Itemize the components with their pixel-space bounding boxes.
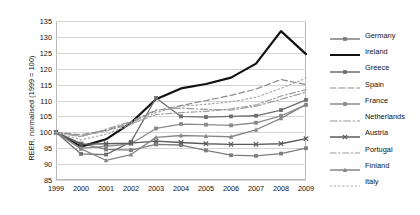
y-tick-label: 120 (18, 64, 52, 73)
legend-swatch (330, 128, 360, 138)
legend-label: Greece (365, 63, 389, 72)
data-point (304, 98, 308, 102)
legend-item-netherlands[interactable]: Netherlands (330, 108, 420, 124)
legend-item-spain[interactable]: Spain (330, 76, 420, 92)
legend-item-austria[interactable]: Austria (330, 125, 420, 141)
data-point (179, 122, 183, 126)
legend-item-italy[interactable]: Italy (330, 174, 420, 190)
legend-swatch (330, 144, 360, 154)
reer-line-chart: REER, normalised (1999 = 100) 8590951001… (0, 0, 420, 215)
y-tick-label: 105 (18, 112, 52, 121)
y-tick-label: 95 (18, 144, 52, 153)
x-tick-label: 2009 (286, 184, 326, 193)
legend-swatch (330, 46, 360, 56)
legend-swatch (330, 30, 360, 40)
x-axis-tick-labels: 1999200020012002200320042005200620072008… (56, 184, 306, 198)
legend-item-ireland[interactable]: Ireland (330, 43, 420, 59)
legend-item-finland[interactable]: Finland (330, 157, 420, 173)
legend-label: Austria (365, 128, 388, 137)
series-netherlands (56, 92, 306, 137)
data-point (204, 123, 208, 127)
series-line (56, 31, 306, 146)
data-point (229, 123, 233, 127)
legend-label: Netherlands (365, 112, 405, 121)
data-point (129, 148, 133, 152)
legend-swatch (330, 63, 360, 73)
legend-item-france[interactable]: France (330, 92, 420, 108)
data-point (79, 152, 83, 156)
legend-label: Finland (365, 161, 389, 170)
y-tick-label: 100 (18, 128, 52, 137)
series-line (56, 92, 306, 137)
data-point (179, 115, 183, 119)
series-ireland (56, 31, 306, 146)
series-layer (56, 21, 306, 180)
data-point (154, 127, 158, 131)
data-point (279, 152, 283, 156)
data-point (229, 115, 233, 119)
legend-swatch (330, 161, 360, 171)
data-point (254, 114, 258, 118)
gridline (56, 180, 306, 181)
legend-label: Ireland (365, 47, 388, 56)
data-point (304, 146, 308, 150)
data-point (204, 149, 208, 153)
data-point (254, 154, 258, 158)
legend-swatch (330, 79, 360, 89)
plot-area (56, 21, 306, 180)
legend-label: Spain (365, 80, 384, 89)
data-point (343, 37, 347, 41)
y-tick-label: 90 (18, 160, 52, 169)
legend-item-portugal[interactable]: Portugal (330, 141, 420, 157)
legend-label: Portugal (365, 145, 393, 154)
data-point (343, 102, 347, 106)
data-point (279, 108, 283, 112)
legend-label: Italy (365, 177, 379, 186)
legend-swatch (330, 112, 360, 122)
y-tick-label: 125 (18, 48, 52, 57)
data-point (229, 153, 233, 157)
data-point (104, 153, 108, 157)
y-tick-label: 135 (18, 17, 52, 26)
data-point (343, 70, 347, 74)
y-tick-label: 115 (18, 80, 52, 89)
legend-swatch (330, 177, 360, 187)
legend-item-greece[interactable]: Greece (330, 60, 420, 76)
legend-item-germany[interactable]: Germany (330, 27, 420, 43)
y-tick-label: 110 (18, 96, 52, 105)
legend-label: France (365, 96, 388, 105)
legend-swatch (330, 95, 360, 105)
y-tick-label: 130 (18, 32, 52, 41)
y-axis-tick-labels: 859095100105110115120125130135 (14, 21, 52, 180)
data-point (154, 96, 158, 100)
legend: GermanyIrelandGreeceSpainFranceNetherlan… (330, 27, 420, 190)
series-finland (54, 102, 308, 162)
legend-label: Germany (365, 31, 395, 40)
data-point (254, 121, 258, 125)
data-point (204, 115, 208, 119)
